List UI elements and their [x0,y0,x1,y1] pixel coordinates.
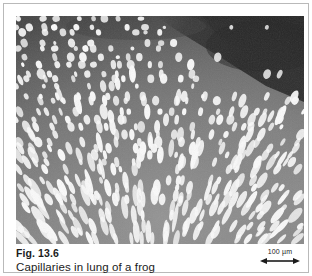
figure-container: Fig. 13.6 Capillaries in lung of a frog … [0,0,312,276]
scale-bar: 100 µm [258,248,302,265]
micrograph-image [16,16,304,244]
caption-text-block: Fig. 13.6 Capillaries in lung of a frog [16,247,226,274]
figure-number-label: Fig. 13.6 [16,247,226,260]
micrograph-canvas [16,16,304,244]
figure-caption-area: Fig. 13.6 Capillaries in lung of a frog … [16,247,304,276]
figure-caption-text: Capillaries in lung of a frog [16,260,226,274]
double-headed-arrow-icon [258,257,302,265]
figure-frame-border: Fig. 13.6 Capillaries in lung of a frog … [3,3,309,273]
scale-bar-label: 100 µm [258,248,302,256]
